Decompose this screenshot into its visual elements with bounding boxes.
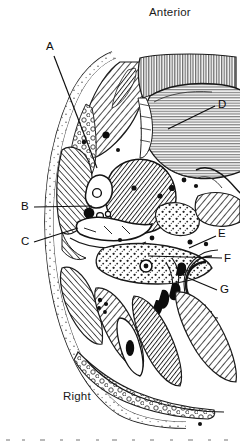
leader-line-G: [186, 277, 217, 290]
leader-label-e: E: [218, 228, 226, 240]
leader-label-f: F: [224, 253, 231, 265]
orientation-label-anterior: Anterior: [149, 7, 191, 19]
figure-root: Anterior Right A B C D E F G: [0, 0, 244, 445]
leader-label-d: D: [218, 99, 226, 111]
leader-line-E: [189, 236, 216, 248]
leader-label-b: B: [21, 201, 29, 213]
region-stippled-adipose-field: [96, 244, 212, 285]
cropped-caption-artifacts: [0, 432, 244, 445]
leader-label-c: C: [21, 236, 29, 248]
orientation-label-right: Right: [63, 391, 91, 403]
leader-label-a: A: [46, 41, 54, 53]
anatomical-section-illustration: [0, 0, 244, 445]
leader-label-g: G: [220, 284, 229, 296]
